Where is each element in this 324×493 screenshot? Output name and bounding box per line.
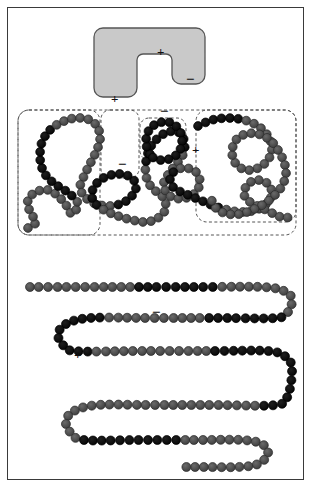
bead bbox=[244, 282, 253, 291]
charged-bead bbox=[134, 436, 143, 445]
bead bbox=[228, 151, 237, 160]
bead bbox=[239, 131, 248, 140]
charged-bead bbox=[229, 346, 238, 355]
positive-charge-label: + bbox=[111, 92, 118, 105]
charged-bead bbox=[286, 358, 295, 367]
charged-bead bbox=[287, 376, 296, 385]
bead bbox=[223, 401, 232, 410]
bead bbox=[207, 196, 216, 205]
bead bbox=[110, 347, 119, 356]
bead bbox=[71, 433, 80, 442]
bead bbox=[196, 401, 205, 410]
bead bbox=[271, 284, 280, 293]
charged-bead bbox=[153, 436, 162, 445]
bead bbox=[138, 347, 147, 356]
charged-bead bbox=[220, 346, 229, 355]
bead bbox=[214, 401, 223, 410]
bead bbox=[108, 283, 117, 292]
bead bbox=[76, 114, 85, 123]
bead bbox=[141, 400, 150, 409]
bead bbox=[226, 463, 235, 472]
bead bbox=[227, 282, 236, 291]
charged-bead bbox=[255, 346, 264, 355]
charged-bead bbox=[83, 347, 92, 356]
bead bbox=[232, 401, 241, 410]
bead bbox=[151, 401, 160, 410]
charged-bead bbox=[226, 114, 235, 123]
bead bbox=[254, 176, 263, 185]
bead bbox=[191, 463, 200, 472]
bead bbox=[207, 435, 216, 444]
positive-charge-label: + bbox=[74, 348, 81, 361]
bead bbox=[178, 314, 187, 323]
bead bbox=[114, 313, 123, 322]
bead bbox=[251, 401, 260, 410]
charged-bead bbox=[268, 314, 277, 323]
charged-bead bbox=[152, 283, 161, 292]
bead bbox=[71, 283, 80, 292]
bead bbox=[194, 183, 203, 192]
charged-bead bbox=[162, 436, 171, 445]
positive-charge-label: + bbox=[157, 45, 164, 58]
charged-bead bbox=[234, 114, 243, 123]
bead bbox=[181, 436, 190, 445]
charged-bead bbox=[277, 313, 286, 322]
bead bbox=[187, 401, 196, 410]
bead bbox=[175, 347, 184, 356]
negative-charge-label: − bbox=[186, 72, 195, 87]
charged-bead bbox=[143, 283, 152, 292]
negative-charge-label: − bbox=[118, 157, 127, 172]
bead bbox=[62, 283, 71, 292]
bead bbox=[123, 313, 132, 322]
bead bbox=[159, 314, 168, 323]
bead bbox=[275, 212, 284, 221]
bead bbox=[141, 165, 150, 174]
bead bbox=[156, 347, 165, 356]
bead bbox=[99, 283, 108, 292]
bead bbox=[218, 282, 227, 291]
charged-bead bbox=[55, 325, 64, 334]
bead bbox=[128, 347, 137, 356]
negative-charge-label: − bbox=[160, 104, 169, 119]
charged-bead bbox=[162, 283, 171, 292]
charged-bead bbox=[132, 184, 141, 193]
charged-bead bbox=[205, 314, 214, 323]
bead bbox=[53, 283, 62, 292]
charged-bead bbox=[214, 314, 223, 323]
charged-bead bbox=[36, 147, 45, 156]
bead bbox=[217, 463, 226, 472]
bead bbox=[60, 117, 69, 126]
charged-bead bbox=[180, 283, 189, 292]
bead bbox=[105, 313, 114, 322]
bead bbox=[262, 283, 271, 292]
negative-charge-label: − bbox=[243, 345, 252, 360]
charged-bead bbox=[241, 314, 250, 323]
positive-charge-label: + bbox=[192, 143, 199, 156]
bead bbox=[165, 347, 174, 356]
charged-bead bbox=[172, 436, 181, 445]
bead bbox=[95, 127, 104, 136]
bead bbox=[202, 347, 211, 356]
bead bbox=[76, 180, 85, 189]
bead bbox=[226, 210, 235, 219]
bead bbox=[81, 283, 90, 292]
bead bbox=[105, 400, 114, 409]
bead bbox=[286, 291, 295, 300]
bead bbox=[132, 400, 141, 409]
bead bbox=[141, 313, 150, 322]
charged-bead bbox=[88, 186, 97, 195]
charged-bead bbox=[178, 137, 187, 146]
bead bbox=[35, 186, 44, 195]
bead bbox=[216, 435, 225, 444]
charged-bead bbox=[288, 367, 297, 376]
bead bbox=[182, 463, 191, 472]
bead bbox=[208, 463, 217, 472]
bead bbox=[253, 164, 262, 173]
collapsed-chain-beads bbox=[23, 114, 292, 233]
negative-charge-label: − bbox=[152, 305, 161, 320]
charged-bead bbox=[149, 153, 158, 162]
bead bbox=[199, 463, 208, 472]
bead bbox=[26, 283, 35, 292]
bead bbox=[72, 205, 81, 214]
charged-bead bbox=[144, 436, 153, 445]
